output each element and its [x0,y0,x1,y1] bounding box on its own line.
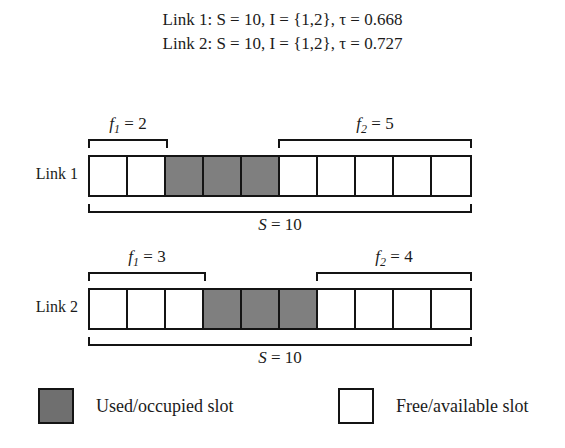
slot-free[interactable] [318,290,356,328]
slot-row-link-2 [88,288,472,330]
slot-free[interactable] [166,290,204,328]
slot-used[interactable] [242,157,280,195]
legend-swatch-free-icon [338,388,374,424]
legend-label-free: Free/available slot [396,396,528,416]
slot-used[interactable] [204,290,242,328]
fragment-label-f1-link-1: f1 = 2 [88,114,168,139]
legend: Used/occupied slot Free/available slot [0,386,565,434]
fragment-bracket-f2-link-1 [278,139,472,148]
slot-used[interactable] [242,290,280,328]
link-label-2: Link 2 [16,298,78,316]
slot-free[interactable] [394,290,432,328]
slot-free[interactable] [128,157,166,195]
slot-free[interactable] [356,290,394,328]
fragment-bracket-f2-link-2 [316,272,472,281]
slot-free[interactable] [90,157,128,195]
fragment-label-f1-link-2: f1 = 3 [88,247,206,272]
slot-used[interactable] [280,290,318,328]
slot-free[interactable] [432,157,470,195]
slot-occupancy-diagram: Link 1f1 = 2f2 = 5S = 10Link 2f1 = 3f2 =… [0,0,565,448]
slot-free[interactable] [90,290,128,328]
total-bracket-link-2 [88,337,472,346]
legend-item-free: Free/available slot [338,386,528,426]
slot-used[interactable] [204,157,242,195]
slot-free[interactable] [394,157,432,195]
legend-swatch-used-icon [38,388,74,424]
slot-row-link-1 [88,155,472,197]
fragment-bracket-f1-link-1 [88,139,168,148]
slot-free[interactable] [318,157,356,195]
legend-label-used: Used/occupied slot [96,396,233,416]
slot-free[interactable] [356,157,394,195]
slot-used[interactable] [166,157,204,195]
slot-free[interactable] [128,290,166,328]
fragment-label-f2-link-1: f2 = 5 [278,114,472,139]
fragment-bracket-f1-link-2 [88,272,206,281]
fragment-label-f2-link-2: f2 = 4 [316,247,472,272]
link-label-1: Link 1 [16,165,78,183]
legend-item-used: Used/occupied slot [38,386,233,426]
slot-free[interactable] [432,290,470,328]
total-bracket-link-1 [88,204,472,213]
total-label-link-2: S = 10 [88,348,472,368]
slot-free[interactable] [280,157,318,195]
total-label-link-1: S = 10 [88,215,472,235]
